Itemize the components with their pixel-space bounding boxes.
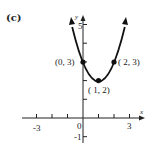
y-axis-label: y [74, 13, 79, 21]
parabola-curve [72, 27, 125, 82]
curve-arrow-right [122, 17, 128, 25]
point-0-3 [80, 59, 85, 64]
y-tick-label-neg1: -1 [74, 132, 82, 142]
point-label-0-3: (0, 3) [55, 57, 75, 67]
origin-label: 0 [77, 121, 82, 131]
x-axis-label: x [139, 108, 144, 116]
x-tick-label-3: 3 [127, 121, 132, 131]
x-tick-label-neg3: -3 [33, 123, 41, 133]
point-label-1-2: ( 1, 2) [88, 85, 110, 95]
y-tick-label-5: 5 [78, 21, 83, 31]
point-1-2 [96, 78, 101, 83]
point-label-2-3: ( 2, 3) [118, 57, 140, 67]
point-2-3 [111, 59, 116, 64]
parabola-chart: x -3 0 3 y 5 -1 (0, 3) ( 1, 2) ( 2, 3) [0, 0, 154, 157]
